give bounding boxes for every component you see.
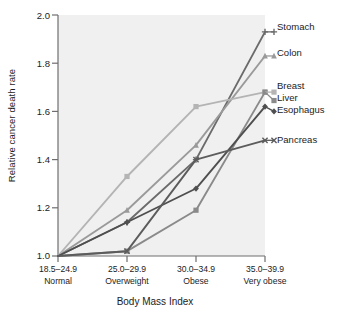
- data-point: [193, 104, 198, 109]
- data-point: [271, 98, 276, 103]
- x-tick-range-very-obese: 35.0–39.9: [226, 264, 304, 276]
- series-label-stomach: Stomach: [277, 22, 315, 33]
- y-tick-label-1.0: 1.0: [20, 251, 50, 261]
- x-tick-range-obese: 30.0–34.9: [157, 264, 235, 276]
- series-label-breast: Breast: [277, 81, 304, 92]
- series-label-esophagus: Esophagus: [277, 105, 325, 116]
- x-axis-title: Body Mass Index: [0, 296, 310, 307]
- y-tick-label-1.6: 1.6: [20, 107, 50, 117]
- x-tick-group-very-obese: 35.0–39.9 Very obese: [226, 264, 304, 287]
- data-point: [193, 208, 198, 213]
- leader-line-layer: [265, 29, 277, 143]
- x-tick-range-normal: 18.5–24.9: [19, 264, 97, 276]
- x-tick-desc-very-obese: Very obese: [226, 276, 304, 288]
- y-tick-label-1.2: 1.2: [20, 203, 50, 213]
- x-tick-group-obese: 30.0–34.9 Obese: [157, 264, 235, 287]
- data-point: [271, 108, 277, 114]
- series-label-liver: Liver: [277, 93, 298, 104]
- y-axis-title-text: Relative cancer death rate: [7, 68, 18, 182]
- data-point: [271, 90, 276, 95]
- cancer-death-rate-line-chart: Relative cancer death rate 2.0 1.8 1.6 1…: [0, 0, 338, 321]
- x-tick-group-normal: 18.5–24.9 Normal: [19, 264, 97, 287]
- x-tick-desc-obese: Obese: [157, 276, 235, 288]
- y-tick-label-2.0: 2.0: [20, 11, 50, 21]
- series-label-pancreas: Pancreas: [277, 135, 317, 146]
- x-tick-desc-overweight: Overweight: [88, 276, 166, 288]
- data-point: [124, 174, 129, 179]
- series-label-colon: Colon: [277, 48, 302, 59]
- x-tick-group-overweight: 25.0–29.9 Overweight: [88, 264, 166, 287]
- y-tick-label-1.4: 1.4: [20, 155, 50, 165]
- x-tick-desc-normal: Normal: [19, 276, 97, 288]
- y-tick-label-1.8: 1.8: [20, 59, 50, 69]
- x-tick-range-overweight: 25.0–29.9: [88, 264, 166, 276]
- y-axis-title: Relative cancer death rate: [2, 0, 22, 250]
